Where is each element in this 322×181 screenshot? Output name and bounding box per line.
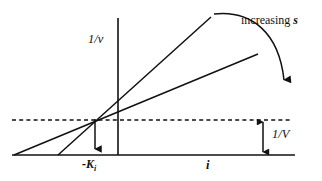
increasing-s-label: increasing s: [241, 14, 298, 26]
plot-canvas: [0, 0, 322, 181]
high-substrate-line: [14, 54, 258, 155]
low-substrate-line: [58, 17, 211, 155]
x-intercept-label-subscript: i: [94, 164, 96, 173]
x-intercept-label: -Ki: [82, 158, 96, 173]
x-intercept-label-text: -K: [82, 157, 94, 171]
vmax-bracket-label: 1/V: [272, 128, 289, 141]
figure-container: 1/v i -Ki 1/V increasing s: [0, 0, 322, 181]
increasing-s-label-text: increasing: [241, 13, 293, 27]
y-axis-label: 1/v: [88, 33, 103, 46]
increasing-s-label-symbol: s: [293, 13, 298, 27]
x-axis-label: i: [206, 159, 209, 172]
